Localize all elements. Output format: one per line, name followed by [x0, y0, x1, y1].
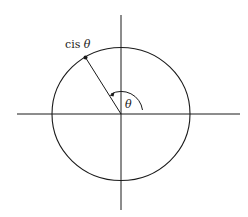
- angle-arrowhead-icon: [110, 92, 115, 97]
- radius-segment: [86, 58, 122, 115]
- point-label: cis θ: [65, 38, 91, 51]
- angle-label: θ: [125, 98, 132, 111]
- unit-circle-diagram: cis θ θ: [0, 0, 248, 217]
- cis-theta-point: [84, 56, 88, 60]
